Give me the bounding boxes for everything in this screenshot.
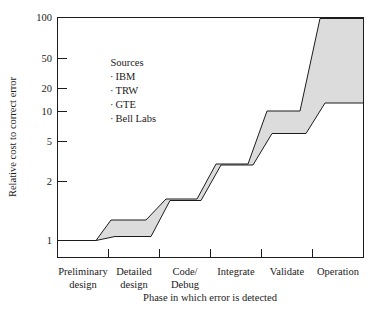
xtick-labels: Preliminary design Detailed design Code/… bbox=[58, 266, 360, 290]
xtick-label-integrate: Integrate bbox=[217, 266, 255, 277]
legend-label-trw: TRW bbox=[116, 85, 139, 96]
ytick-label-2: 2 bbox=[47, 176, 52, 187]
cost-band-area bbox=[58, 19, 364, 241]
legend-items: ·IBM ·TRW ·GTE ·Bell Labs bbox=[110, 71, 156, 124]
legend-bullet-gte: · bbox=[110, 99, 114, 110]
legend-item-trw: ·TRW bbox=[110, 85, 138, 96]
ytick-label-20: 20 bbox=[42, 83, 53, 94]
xtick-label-detailed-design-line2: design bbox=[120, 279, 148, 290]
legend-item-ibm: ·IBM bbox=[110, 71, 136, 82]
xtick-label-code-debug-line1: Code/ bbox=[172, 266, 197, 277]
cost-to-correct-error-chart: 100 50 20 10 5 2 1 Sources ·IBM ·TRW ·GT… bbox=[0, 0, 374, 314]
x-axis-title: Phase in which error is detected bbox=[143, 292, 278, 303]
chart-figure: 100 50 20 10 5 2 1 Sources ·IBM ·TRW ·GT… bbox=[0, 0, 374, 314]
xtick-label-operation: Operation bbox=[317, 266, 360, 277]
y-axis-title: Relative cost to correct error bbox=[7, 76, 18, 197]
legend-label-ibm: IBM bbox=[116, 71, 137, 82]
legend-item-bell-labs: ·Bell Labs bbox=[110, 113, 156, 124]
xtick-label-validate: Validate bbox=[270, 266, 305, 277]
legend-label-bell-labs: Bell Labs bbox=[116, 113, 157, 124]
ytick-label-50: 50 bbox=[42, 53, 53, 64]
legend-item-gte: ·GTE bbox=[110, 99, 136, 110]
legend-title: Sources bbox=[110, 57, 143, 68]
ytick-label-5: 5 bbox=[47, 136, 52, 147]
xtick-label-code-debug-line2: Debug bbox=[171, 279, 200, 290]
ytick-label-10: 10 bbox=[42, 106, 53, 117]
xtick-label-preliminary-design-line2: design bbox=[69, 279, 97, 290]
legend-bullet-bell-labs: · bbox=[110, 113, 114, 124]
ytick-label-1: 1 bbox=[47, 235, 52, 246]
ytick-label-100: 100 bbox=[36, 12, 52, 23]
legend-bullet-ibm: · bbox=[110, 71, 114, 82]
legend-bullet-trw: · bbox=[110, 85, 114, 96]
xtick-label-preliminary-design-line1: Preliminary bbox=[58, 266, 108, 277]
legend-label-gte: GTE bbox=[116, 99, 136, 110]
xtick-label-detailed-design-line1: Detailed bbox=[116, 266, 152, 277]
